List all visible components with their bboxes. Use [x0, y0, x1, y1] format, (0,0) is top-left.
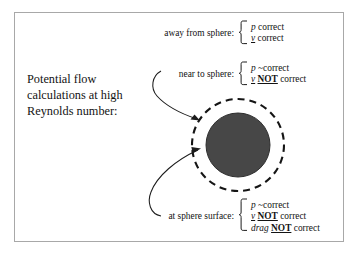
group-items-at-sphere-surface: p ~correct v NOT correct drag NOT correc…	[251, 200, 320, 235]
list-item: p ~correct	[251, 200, 320, 212]
group-label-near-to-sphere: near to sphere:	[116, 69, 234, 79]
heading-line-2: calculations at high	[27, 87, 123, 103]
heading-line-3: Reynolds number:	[27, 103, 123, 119]
group-label-away-from-sphere: away from sphere:	[116, 28, 234, 38]
list-item: v NOT correct	[251, 211, 320, 223]
negation: NOT	[258, 74, 278, 84]
verdict: correct	[294, 223, 320, 233]
figure-canvas: Potential flow calculations at high Reyn…	[0, 0, 357, 254]
symbol-p: p	[251, 63, 256, 73]
list-item: p correct	[251, 22, 284, 34]
symbol-v: v	[251, 33, 255, 43]
negation: NOT	[271, 223, 291, 233]
symbol-drag: drag	[251, 223, 269, 233]
group-items-away-from-sphere: p correct v correct	[251, 22, 284, 45]
list-item: v correct	[251, 33, 284, 45]
group-label-at-sphere-surface: at sphere surface:	[116, 211, 234, 221]
group-items-near-to-sphere: p ~correct v NOT correct	[251, 63, 306, 86]
negation: NOT	[258, 211, 278, 221]
verdict: correct	[280, 74, 306, 84]
symbol-v: v	[251, 211, 255, 221]
list-item: drag NOT correct	[251, 223, 320, 235]
page-title: Potential flow calculations at high Reyn…	[27, 71, 123, 119]
heading-line-1: Potential flow	[27, 71, 123, 87]
list-item: v NOT correct	[251, 74, 306, 86]
list-item: p ~correct	[251, 63, 306, 75]
symbol-v: v	[251, 74, 255, 84]
symbol-p: p	[251, 200, 256, 210]
verdict: correct	[258, 33, 284, 43]
symbol-p: p	[251, 22, 256, 32]
verdict: correct	[263, 63, 289, 73]
verdict: correct	[258, 22, 284, 32]
verdict: correct	[280, 211, 306, 221]
verdict: correct	[263, 200, 289, 210]
